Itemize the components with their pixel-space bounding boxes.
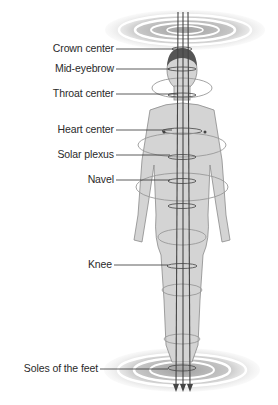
label-knee: Knee <box>88 258 112 270</box>
label-soles-of-the-feet: Soles of the feet <box>24 362 98 374</box>
energy-body-diagram <box>0 0 278 405</box>
label-throat-center: Throat center <box>53 87 114 99</box>
label-heart-center: Heart center <box>57 123 114 135</box>
label-solar-plexus: Solar plexus <box>57 148 114 160</box>
arrow-down-icons <box>173 384 193 392</box>
label-crown-center: Crown center <box>53 42 114 54</box>
label-mid-eyebrow: Mid-eyebrow <box>55 62 114 74</box>
label-navel: Navel <box>88 173 114 185</box>
crown-vortex-icon <box>105 10 265 50</box>
